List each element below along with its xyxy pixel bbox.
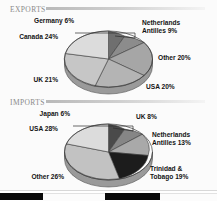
imports-label-other: Other 26% (2, 173, 64, 181)
exports-pie-chart: Germany 6% Canada 24% UK 21% Netherlands… (0, 14, 217, 96)
imports-label-netherlands-antilles: Netherlands Antilles 13% (152, 131, 217, 146)
strip-segment-dark-right (105, 193, 160, 200)
exports-label-canada: Canada 24% (2, 33, 58, 41)
exports-label-germany: Germany 6% (10, 17, 74, 25)
strip-segment-light-two (160, 193, 217, 201)
bottom-strip (0, 190, 217, 201)
imports-label-japan: Japan 6% (12, 110, 70, 118)
strip-segment-light-one (43, 193, 105, 201)
imports-header-rule (46, 100, 205, 103)
exports-header-label: EXPORTS (10, 5, 46, 14)
exports-label-uk: UK 21% (2, 76, 58, 84)
exports-label-netherlands-antilles: Netherlands Antilles 9% (142, 19, 212, 34)
strip-segment-dark-left (0, 193, 43, 200)
imports-label-usa: USA 28% (2, 125, 58, 133)
exports-label-other: Other 20% (158, 54, 216, 62)
imports-header-label: IMPORTS (10, 98, 45, 107)
imports-label-uk: UK 8% (136, 113, 198, 121)
exports-label-usa: USA 20% (146, 83, 208, 91)
exports-header-rule (46, 7, 205, 10)
imports-label-trinidad-tobago: Trinidad & Tobago 19% (150, 165, 216, 180)
pie-chart-figure: EXPORTS (0, 0, 217, 201)
imports-pie-chart: Japan 6% USA 28% Other 26% UK 8% Netherl… (0, 107, 217, 189)
